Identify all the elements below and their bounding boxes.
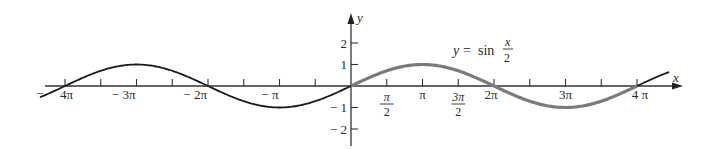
svg-text:=: = (463, 43, 471, 58)
x-tick-label: π (384, 90, 391, 104)
y-tick-label: − 2 (330, 122, 347, 137)
x-tick-label: 4π (60, 87, 74, 102)
x-tick-label: − 3π (112, 87, 136, 102)
x-axis-label: x (672, 70, 679, 85)
x-tick-label: 3π (451, 90, 465, 104)
x-tick-label: 4 π (632, 87, 649, 102)
x-tick-label-minus: − (36, 86, 43, 101)
y-tick-label: 2 (341, 36, 348, 51)
y-tick-label: 1 (341, 57, 348, 72)
x-tick-label: 2 (384, 105, 390, 119)
x-tick-label: − 2π (183, 87, 207, 102)
x-tick-label: π (419, 87, 426, 102)
y-axis-arrow-icon (348, 13, 355, 24)
svg-text:x: x (504, 35, 511, 49)
svg-text:2: 2 (504, 51, 510, 65)
x-tick-label: 2π (484, 87, 498, 102)
svg-text:y: y (451, 43, 460, 58)
y-axis-label: y (355, 10, 363, 25)
x-tick-label: 3π (559, 87, 573, 102)
svg-text:sin: sin (478, 43, 494, 58)
y-tick-label: − 1 (330, 100, 347, 115)
function-label: y = sin x 2 (451, 35, 513, 65)
sine-graph: x y y = sin x 2 4π−− 3π− 2π− ππ2π3π22π3π… (0, 0, 701, 149)
x-tick-label: − π (261, 87, 279, 102)
x-tick-label: 2 (455, 105, 461, 119)
